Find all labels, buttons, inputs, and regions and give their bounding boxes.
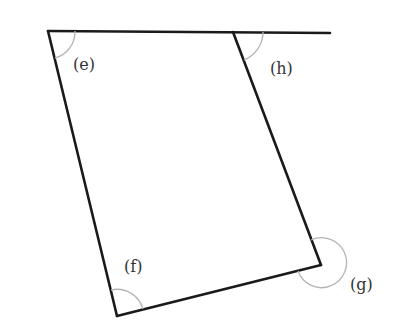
bottom-side [117,265,321,316]
angle-label-g: (g) [350,275,373,294]
angle-label-e: (e) [73,55,95,74]
angle-label-f: (f) [124,257,142,276]
quadrilateral-diagram: (e) (h) (f) (g) [0,0,411,336]
top-extended-line [48,31,330,33]
angle-arc-e [55,31,75,58]
angle-arc-h [244,32,263,60]
angle-label-h: (h) [270,59,293,78]
angle-arc-g [298,238,347,288]
